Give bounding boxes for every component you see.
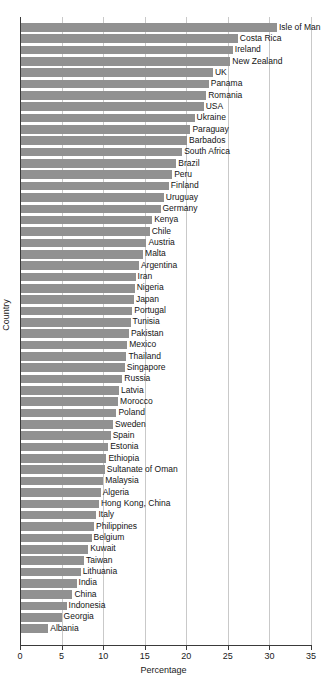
bar: [20, 34, 238, 43]
bar-category-label: Kuwait: [88, 543, 116, 553]
bar: [20, 545, 88, 554]
bar-category-label: Uruguay: [164, 192, 198, 202]
bar: [20, 386, 119, 395]
bar: [20, 602, 67, 611]
bar-row: Poland: [20, 408, 311, 419]
bar-category-label: Chile: [150, 226, 171, 236]
bar: [20, 568, 81, 577]
bar-category-label: USA: [204, 101, 223, 111]
bar-row: Georgia: [20, 612, 311, 623]
bar-row: Lithuania: [20, 567, 311, 578]
bar: [20, 125, 190, 134]
bar-row: Iran: [20, 272, 311, 283]
x-tick-label: 20: [181, 651, 191, 662]
bar: [20, 295, 134, 304]
bar: [20, 420, 113, 429]
bar: [20, 624, 48, 633]
x-tick-mark: [228, 646, 229, 650]
bar-row: Algeria: [20, 487, 311, 498]
bar-row: Argentina: [20, 260, 311, 271]
bar-category-label: Poland: [116, 407, 144, 417]
bar-row: Latvia: [20, 385, 311, 396]
bar: [20, 352, 126, 361]
bar-category-label: Malaysia: [103, 475, 139, 485]
bar-row: Estonia: [20, 442, 311, 453]
bar: [20, 193, 164, 202]
bar: [20, 227, 150, 236]
bar-category-label: Sweden: [113, 419, 146, 429]
bar-category-label: Estonia: [108, 441, 138, 451]
bar-row: Costa Rica: [20, 33, 311, 44]
x-tick-mark: [311, 646, 312, 650]
bar-chart: Isle of ManCosta RicaIrelandNew ZealandU…: [0, 0, 327, 683]
bar-category-label: Paraguay: [190, 124, 228, 134]
y-axis-label: Country: [1, 299, 11, 331]
bar-row: Mexico: [20, 340, 311, 351]
bar-category-label: Indonesia: [67, 600, 106, 610]
bar-category-label: Hong Kong, China: [99, 498, 170, 508]
bar-row: Germany: [20, 204, 311, 215]
bar-category-label: Pakistan: [129, 328, 164, 338]
bar: [20, 454, 106, 463]
bar-row: Finland: [20, 181, 311, 192]
bar-category-label: Sultanate of Oman: [105, 464, 178, 474]
bar-category-label: Philippines: [94, 521, 137, 531]
bar-row: Ukraine: [20, 113, 311, 124]
bar-row: Malaysia: [20, 476, 311, 487]
bar-row: Taiwan: [20, 555, 311, 566]
bar-row: Tunisia: [20, 317, 311, 328]
bar: [20, 341, 127, 350]
bar-category-label: South Africa: [182, 146, 230, 156]
bar: [20, 477, 103, 486]
x-tick-mark: [103, 646, 104, 650]
bar: [20, 148, 182, 157]
bar-category-label: Kenya: [152, 214, 178, 224]
bar-category-label: Barbados: [187, 135, 225, 145]
bar-row: Spain: [20, 430, 311, 441]
bar-row: Romania: [20, 90, 311, 101]
bar-category-label: Singapore: [125, 362, 166, 372]
bar-category-label: Albania: [48, 623, 78, 633]
bar-row: Hong Kong, China: [20, 499, 311, 510]
bar-row: Chile: [20, 226, 311, 237]
plot-area: Isle of ManCosta RicaIrelandNew ZealandU…: [20, 17, 311, 645]
bar-category-label: Italy: [96, 509, 114, 519]
bar-row: South Africa: [20, 147, 311, 158]
bar-category-label: UK: [213, 67, 227, 77]
bar-category-label: Ukraine: [195, 112, 226, 122]
bar-category-label: Costa Rica: [238, 33, 282, 43]
bar-row: Sweden: [20, 419, 311, 430]
bar-row: Nigeria: [20, 283, 311, 294]
bar-category-label: Ireland: [233, 44, 261, 54]
bar-category-label: Iran: [136, 271, 153, 281]
bar: [20, 579, 77, 588]
bar: [20, 284, 135, 293]
bar: [20, 511, 96, 520]
bar-row: Belgium: [20, 533, 311, 544]
bar-row: Ethiopia: [20, 453, 311, 464]
x-tick-mark: [62, 646, 63, 650]
bar-category-label: Nigeria: [135, 282, 164, 292]
bar-row: USA: [20, 101, 311, 112]
bar-category-label: Spain: [111, 430, 135, 440]
bar: [20, 239, 146, 248]
bar-row: Malta: [20, 249, 311, 260]
bar-category-label: New Zealand: [230, 56, 282, 66]
bar: [20, 170, 172, 179]
bar-category-label: Austria: [146, 237, 174, 247]
bar-row: Thailand: [20, 351, 311, 362]
bar-category-label: Morocco: [118, 396, 153, 406]
bar-category-label: Taiwan: [84, 555, 112, 565]
bar: [20, 409, 116, 418]
bar: [20, 375, 122, 384]
bar-category-label: China: [72, 589, 96, 599]
bar-row: China: [20, 589, 311, 600]
bar: [20, 159, 176, 168]
x-tick-mark: [186, 646, 187, 650]
bar-row: Peru: [20, 169, 311, 180]
bar: [20, 80, 209, 89]
bar-category-label: Tunisia: [131, 316, 160, 326]
bar-category-label: Thailand: [126, 351, 161, 361]
bar-row: Isle of Man: [20, 22, 311, 33]
bar: [20, 102, 204, 111]
